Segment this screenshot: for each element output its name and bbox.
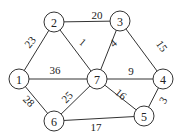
- node-3: 3: [110, 11, 130, 31]
- node-5: 5: [134, 106, 154, 126]
- node-label: 2: [51, 16, 57, 30]
- edge-weight-label: 16: [113, 86, 130, 103]
- node-label: 4: [160, 73, 166, 87]
- edge-weight-label: 9: [128, 65, 134, 77]
- node-label: 5: [141, 110, 147, 124]
- edge-weight-label: 23: [22, 34, 39, 51]
- edge-weight-label: 1: [77, 36, 89, 49]
- edge-3-4: [120, 21, 163, 79]
- edge-weight-label: 15: [154, 38, 170, 54]
- node-7: 7: [87, 69, 107, 89]
- edge-weight-label: 20: [92, 9, 104, 21]
- edge-weight-label: 28: [21, 93, 38, 110]
- edge-weight-label: 36: [50, 64, 62, 76]
- node-4: 4: [153, 69, 173, 89]
- node-label: 1: [16, 73, 22, 87]
- edge-weight-label: 3: [156, 94, 169, 105]
- node-6: 6: [44, 111, 64, 131]
- node-2: 2: [44, 12, 64, 32]
- nodes: 1234567: [9, 11, 173, 131]
- node-label: 7: [94, 73, 100, 87]
- node-1: 1: [9, 69, 29, 89]
- edge-weight-label: 17: [91, 121, 103, 133]
- weighted-graph-diagram: 20231415369282516317 1234567: [0, 0, 177, 136]
- node-label: 6: [51, 115, 57, 129]
- node-label: 3: [117, 15, 123, 29]
